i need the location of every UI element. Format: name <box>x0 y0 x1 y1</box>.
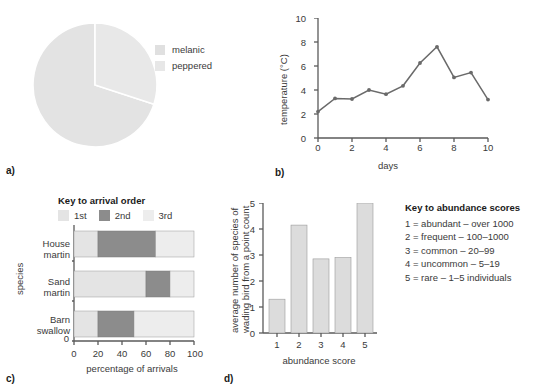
panel-c-stacked-bar-chart: Key to arrival order 1st 2nd 3rd species… <box>0 185 215 387</box>
temperature-series-markers <box>316 45 490 114</box>
legend-label-melanic: melanic <box>172 44 205 55</box>
key-abundance-title: Key to abundance scores <box>405 201 520 215</box>
y-axis-title-line1: average number of species of <box>229 208 240 333</box>
d-y-tick-2: 2 <box>245 276 255 287</box>
abundance-bars <box>269 203 373 333</box>
c-x-tick-20: 20 <box>90 348 106 359</box>
key-abundance-entry-3: 3 = common – 20–99 <box>405 244 520 258</box>
d-y-tick-1: 1 <box>245 302 255 313</box>
key-label-2nd: 2nd <box>115 210 131 221</box>
legend-item-peppered: peppered <box>155 60 212 71</box>
x-axis-title-abundance-score: abundance score <box>257 355 381 366</box>
panel-d-bar-chart: average number of species of wading bird… <box>215 185 545 387</box>
d-x-tick-2: 2 <box>293 339 305 350</box>
x-tick-6: 6 <box>414 142 426 153</box>
pie-svg <box>30 20 160 150</box>
x-tick-0: 0 <box>312 142 324 153</box>
legend-label-peppered: peppered <box>172 60 212 71</box>
key-legend-arrival-order: 1st 2nd 3rd <box>58 210 184 221</box>
bar-score-3 <box>313 259 329 333</box>
y-axis-zero-label: 0 <box>55 333 69 344</box>
y-tick-0: 0 <box>292 133 306 144</box>
c-x-tick-80: 80 <box>162 348 178 359</box>
bar-row-barn-swallow <box>74 311 194 337</box>
d-y-tick-0: 0 <box>245 328 255 339</box>
c-x-tick-40: 40 <box>114 348 130 359</box>
panel-b-line-chart: temperature (°C) 10 8 6 4 2 0 <box>272 0 545 185</box>
key-item-3rd: 3rd <box>143 210 173 221</box>
c-x-tick-60: 60 <box>138 348 154 359</box>
key-abundance-entry-5: 5 = rare – 1–5 individuals <box>405 271 520 285</box>
key-swatch-3rd <box>143 210 154 221</box>
d-y-tick-4: 4 <box>245 224 255 235</box>
pie-legend: melanic peppered <box>155 44 212 76</box>
key-title-arrival-order: Key to arrival order <box>58 195 145 206</box>
category-label-house-martin: Housemartin <box>22 238 70 260</box>
bar-row-sand-martin <box>74 271 194 297</box>
legend-item-melanic: melanic <box>155 44 212 55</box>
x-tick-8: 8 <box>448 142 460 153</box>
line-plot-svg <box>310 18 510 178</box>
pie-chart-graphic <box>30 20 160 150</box>
key-abundance-entry-2: 2 = frequent – 100–1000 <box>405 230 520 244</box>
x-tick-10: 10 <box>480 142 496 153</box>
key-swatch-1st <box>58 210 69 221</box>
d-x-tick-4: 4 <box>337 339 349 350</box>
key-label-3rd: 3rd <box>159 210 173 221</box>
x-tick-2: 2 <box>346 142 358 153</box>
y-tick-6: 6 <box>292 61 306 72</box>
key-abundance-scores: Key to abundance scores 1 = abundant – o… <box>405 201 520 284</box>
y-tick-2: 2 <box>292 109 306 120</box>
legend-swatch-melanic <box>155 45 165 55</box>
temperature-series-line <box>318 47 488 112</box>
x-tick-4: 4 <box>380 142 392 153</box>
bar-score-1 <box>269 299 285 333</box>
d-x-tick-5: 5 <box>359 339 371 350</box>
bar-score-5 <box>357 203 373 333</box>
x-axis-title-percentage-arrivals: percentage of arrivals <box>62 363 202 374</box>
bar-row-house-martin <box>74 231 194 257</box>
key-abundance-entry-4: 4 = uncommon – 5–19 <box>405 257 520 271</box>
y-tick-10: 10 <box>292 13 306 24</box>
d-y-tick-3: 3 <box>245 250 255 261</box>
category-label-sand-martin: Sandmartin <box>22 276 70 298</box>
key-label-1st: 1st <box>74 210 87 221</box>
key-item-2nd: 2nd <box>99 210 131 221</box>
panel-label-b: b) <box>275 167 284 178</box>
c-x-tick-0: 0 <box>68 348 80 359</box>
d-y-tick-5: 5 <box>245 198 255 209</box>
c-x-tick-100: 100 <box>184 348 206 359</box>
y-axis-title-temperature: temperature (°C) <box>278 54 289 125</box>
panel-a-pie-chart: melanic peppered a) <box>0 0 272 185</box>
d-x-tick-1: 1 <box>271 339 283 350</box>
y-tick-8: 8 <box>292 37 306 48</box>
key-swatch-2nd <box>99 210 110 221</box>
y-tick-4: 4 <box>292 85 306 96</box>
bar-score-4 <box>335 258 351 333</box>
key-item-1st: 1st <box>58 210 87 221</box>
x-axis-title-days: days <box>348 160 428 171</box>
key-abundance-entry-1: 1 = abundant – over 1000 <box>405 217 520 231</box>
legend-swatch-peppered <box>155 61 165 71</box>
d-x-tick-3: 3 <box>315 339 327 350</box>
panel-label-a: a) <box>6 165 15 176</box>
bar-score-2 <box>291 225 307 333</box>
stacked-bar-plot-svg <box>72 225 212 385</box>
cropped-caption-line <box>0 378 545 387</box>
